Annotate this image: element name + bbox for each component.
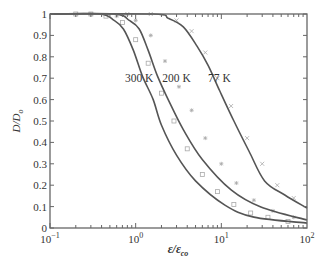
x-marker xyxy=(260,162,264,166)
y-tick-label: 0.7 xyxy=(33,72,47,84)
x-label-main: ε/ε xyxy=(168,242,181,256)
y-axis-label: D/Do xyxy=(10,110,25,134)
asterisk-marker xyxy=(219,162,223,166)
square-marker xyxy=(120,21,124,25)
y-tick-label: 1 xyxy=(42,8,48,20)
curve-label: 200 K xyxy=(162,72,191,84)
curve-77k xyxy=(50,14,307,208)
asterisk-marker xyxy=(190,108,194,112)
y-axis-ticks: 00.10.20.30.40.50.60.70.80.91 xyxy=(33,8,307,234)
x-tick-label: 101 xyxy=(214,231,229,245)
asterisk-marker xyxy=(252,198,256,202)
square-marker xyxy=(159,91,163,95)
y-tick-label: 0.3 xyxy=(33,158,47,170)
x-axis-label: ε/εco xyxy=(168,242,189,258)
curve-labels: 300 K200 K77 K xyxy=(125,72,231,84)
square-marker xyxy=(232,202,236,206)
asterisk-marker xyxy=(163,59,167,63)
curve-200k xyxy=(50,14,307,221)
chart: 10−1100101102 00.10.20.30.40.50.60.70.80… xyxy=(0,0,324,262)
y-tick-label: 0.1 xyxy=(33,201,47,213)
square-marker xyxy=(146,61,150,65)
x-tick-label: 102 xyxy=(300,231,315,245)
y-label-main: D/D xyxy=(10,113,22,133)
curve-label: 77 K xyxy=(208,72,231,84)
y-label-sub: o xyxy=(16,110,25,114)
x-marker xyxy=(245,136,249,140)
curve-label: 300 K xyxy=(125,72,154,84)
y-tick-label: 0.2 xyxy=(33,179,47,191)
x-marker xyxy=(229,104,233,108)
asterisk-marker xyxy=(234,181,238,185)
square-marker xyxy=(200,173,204,177)
asterisk-marker xyxy=(134,18,138,22)
square-marker xyxy=(185,147,189,151)
square-marker xyxy=(215,190,219,194)
x-marker xyxy=(203,51,207,55)
x-marker xyxy=(190,29,194,33)
square-marker xyxy=(172,119,176,123)
y-tick-label: 0.6 xyxy=(33,94,47,106)
y-tick-label: 0.8 xyxy=(33,51,47,63)
y-tick-label: 0.4 xyxy=(33,136,47,148)
asterisk-marker xyxy=(203,136,207,140)
y-tick-label: 0.5 xyxy=(33,115,47,127)
x-label-sub: co xyxy=(181,249,189,258)
asterisk-marker xyxy=(177,85,181,89)
curve-300k xyxy=(50,14,307,224)
y-tick-label: 0.9 xyxy=(33,29,47,41)
y-tick-label: 0 xyxy=(42,222,48,234)
asterisk-marker xyxy=(149,33,153,37)
square-marker xyxy=(134,38,138,42)
fit-curves xyxy=(50,14,307,224)
x-tick-label: 100 xyxy=(128,231,143,245)
square-marker xyxy=(249,211,253,215)
data-markers xyxy=(74,12,296,224)
x-marker xyxy=(275,183,279,187)
